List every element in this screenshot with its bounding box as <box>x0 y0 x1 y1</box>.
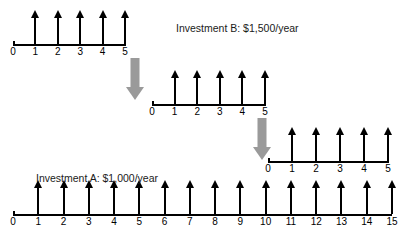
cash-flow-arrow <box>239 186 241 212</box>
cash-flow-arrow <box>387 133 389 161</box>
cash-flow-arrow <box>37 186 39 212</box>
tick-label: 0 <box>10 216 16 228</box>
cash-flow-arrow <box>391 186 393 212</box>
tick-label: 5 <box>385 163 391 175</box>
transfer-arrow-1 <box>126 58 144 100</box>
cash-flow-arrow <box>241 76 243 104</box>
tick-label: 2 <box>313 163 319 175</box>
cash-flow-arrow <box>124 16 126 44</box>
cash-flow-arrow <box>363 133 365 161</box>
timeline-investment-b-cycle-2: 012345 <box>152 70 265 106</box>
cash-flow-arrow <box>102 16 104 44</box>
tick-label: 3 <box>217 106 223 118</box>
cash-flow-arrow <box>264 76 266 104</box>
cash-flow-arrow <box>265 186 267 212</box>
cash-flow-arrow <box>34 16 36 44</box>
tick-label: 2 <box>194 106 200 118</box>
tick-label: 3 <box>77 46 83 58</box>
tick-label: 4 <box>111 216 117 228</box>
cash-flow-arrow <box>196 76 198 104</box>
tick-label: 0 <box>265 163 271 175</box>
cash-flow-arrow <box>219 76 221 104</box>
transfer-arrow-shaft <box>131 58 140 87</box>
tick-label: 9 <box>238 216 244 228</box>
tick-label: 5 <box>122 46 128 58</box>
tick-label: 14 <box>361 216 372 228</box>
cash-flow-arrow <box>88 186 90 212</box>
cash-flow-arrow <box>57 16 59 44</box>
tick-label: 3 <box>337 163 343 175</box>
cash-flow-arrow <box>214 186 216 212</box>
cash-flow-arrow <box>63 186 65 212</box>
tick-label: 5 <box>137 216 143 228</box>
tick-label: 5 <box>262 106 268 118</box>
transfer-arrow-shaft <box>258 118 267 147</box>
tick-label: 2 <box>55 46 61 58</box>
tick-label: 0 <box>149 106 155 118</box>
transfer-arrow-head <box>126 87 144 100</box>
tick-label: 1 <box>33 46 39 58</box>
cash-flow-arrow <box>164 186 166 212</box>
timeline-investment-b-cycle-1: 012345 <box>13 10 125 46</box>
timeline-axis <box>152 104 265 106</box>
cash-flow-arrow <box>340 186 342 212</box>
timeline-axis <box>13 44 125 46</box>
tick-label: 10 <box>260 216 271 228</box>
tick-label: 2 <box>61 216 67 228</box>
tick-label: 4 <box>361 163 367 175</box>
cash-flow-arrow <box>79 16 81 44</box>
cash-flow-arrow <box>290 186 292 212</box>
timeline-investment-a: 0123456789101112131415 <box>13 180 392 216</box>
timeline-axis <box>268 161 388 163</box>
tick-label: 6 <box>162 216 168 228</box>
cash-flow-diagram: 012345 012345 012345 0123456789101112131… <box>0 0 414 238</box>
cash-flow-arrow <box>291 133 293 161</box>
caption-investment-b: Investment B: $1,500/year <box>176 22 299 35</box>
cash-flow-arrow <box>315 186 317 212</box>
tick-label: 13 <box>336 216 347 228</box>
cash-flow-arrow <box>339 133 341 161</box>
cash-flow-arrow <box>138 186 140 212</box>
tick-label: 3 <box>86 216 92 228</box>
tick-label: 1 <box>289 163 295 175</box>
cash-flow-arrow <box>113 186 115 212</box>
tick-label: 7 <box>187 216 193 228</box>
tick-label: 11 <box>286 216 296 228</box>
cash-flow-arrow <box>315 133 317 161</box>
tick-label: 4 <box>100 46 106 58</box>
tick-label: 1 <box>172 106 178 118</box>
transfer-arrow-2 <box>253 118 271 160</box>
tick-label: 8 <box>212 216 218 228</box>
tick-label: 15 <box>386 216 397 228</box>
cash-flow-arrow <box>366 186 368 212</box>
cash-flow-arrow <box>189 186 191 212</box>
tick-label: 1 <box>35 216 41 228</box>
caption-investment-a: Investment A: $1,000/year <box>36 172 158 185</box>
tick-label: 4 <box>240 106 246 118</box>
cash-flow-arrow <box>174 76 176 104</box>
tick-label: 12 <box>311 216 322 228</box>
timeline-investment-b-cycle-3: 012345 <box>268 127 388 163</box>
tick-label: 0 <box>10 46 16 58</box>
transfer-arrow-head <box>253 147 271 160</box>
